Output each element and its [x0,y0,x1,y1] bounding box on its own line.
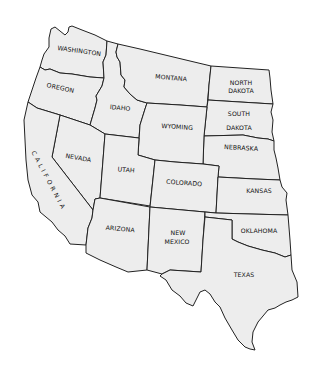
label-north-dakota-line2: DAKOTA [228,87,254,94]
label-oklahoma: OKLAHOMA [241,227,278,234]
label-new-mexico-line2: MEXICO [164,238,189,245]
state-arizona[interactable] [86,198,150,272]
label-kansas: KANSAS [246,187,272,194]
state-colorado[interactable] [150,160,219,213]
label-texas: TEXAS [233,271,255,278]
label-south-dakota-line2: DAKOTA [226,124,252,131]
state-kansas[interactable] [216,177,288,215]
state-wyoming[interactable] [138,103,207,164]
western-us-map: WASHINGTON OREGON IDAHO MONTANA NORTH DA… [0,0,316,366]
label-north-dakota-line1: NORTH [230,79,253,86]
label-new-mexico-line1: NEW [171,229,186,236]
label-south-dakota-line1: SOUTH [228,110,251,117]
